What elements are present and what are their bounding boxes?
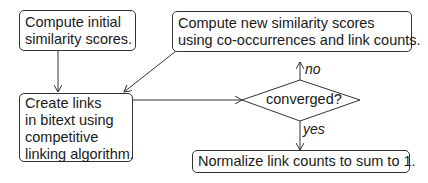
node-text: Compute initial <box>25 14 130 31</box>
node-compute-initial: Compute initial similarity scores. <box>19 10 136 51</box>
node-text: Create links <box>25 95 127 112</box>
node-create-links: Create links in bitext using competitive… <box>19 93 133 162</box>
node-text: Compute new similarity scores <box>178 15 406 32</box>
node-text: Normalize link counts to sum to 1. <box>198 153 404 170</box>
node-text: competitive <box>25 129 127 146</box>
node-text: in bitext using <box>25 112 127 129</box>
node-normalize: Normalize link counts to sum to 1. <box>192 150 410 173</box>
edge-label-no: no <box>305 61 321 77</box>
decision-text: converged? <box>266 91 342 107</box>
node-text: using co-occurrences and link counts. <box>178 32 406 49</box>
edge-label-yes: yes <box>303 121 325 137</box>
node-compute-new: Compute new similarity scores using co-o… <box>172 11 412 52</box>
node-text: linking algorithm. <box>25 146 127 163</box>
node-text: similarity scores. <box>25 31 130 48</box>
